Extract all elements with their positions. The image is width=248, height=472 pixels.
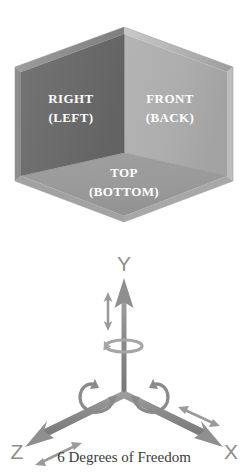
- axes-group: Y Z: [11, 252, 238, 466]
- axis-x-translation-shaft: [185, 410, 213, 423]
- cube-label-right-primary: FRONT: [146, 91, 194, 106]
- axes-diagram: Y Z: [0, 250, 248, 472]
- cube-bevel-left: [15, 67, 21, 181]
- cube-label-bottom-secondary: (BOTTOM): [89, 184, 159, 199]
- cube-label-left-primary: RIGHT: [48, 91, 93, 106]
- cube-label-right-secondary: (BACK): [146, 110, 195, 125]
- cube-label-left-secondary: (LEFT): [48, 110, 93, 125]
- figure-caption: 6 Degrees of Freedom: [0, 449, 248, 466]
- axis-y-label: Y: [117, 252, 131, 275]
- axis-y: Y: [104, 252, 143, 395]
- cube-bevel-right: [227, 67, 233, 181]
- axes-svg: Y Z: [0, 250, 248, 472]
- axis-y-shaft: [122, 295, 127, 395]
- six-degrees-of-freedom-figure: RIGHT (LEFT) FRONT (BACK) TOP (BOTTOM): [0, 0, 248, 472]
- axis-y-translation-arrow: [104, 292, 113, 331]
- cube-svg: RIGHT (LEFT) FRONT (BACK) TOP (BOTTOM): [0, 0, 248, 250]
- cube-diagram: RIGHT (LEFT) FRONT (BACK) TOP (BOTTOM): [0, 0, 248, 250]
- cube-label-bottom-primary: TOP: [110, 165, 138, 180]
